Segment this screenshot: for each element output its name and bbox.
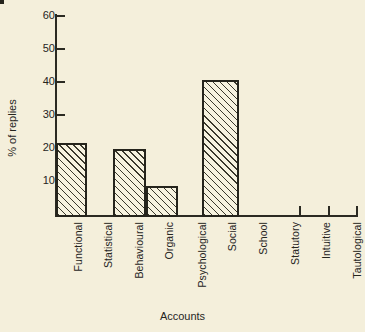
x-label-functional: Functional — [72, 222, 84, 271]
x-label-psychological: Psychological — [196, 222, 208, 288]
y-tick-mark-40 — [57, 81, 65, 83]
x-label-school: School — [257, 222, 269, 255]
x-label-tautological: Tautological — [351, 222, 363, 279]
y-tick-label-30: 30 — [29, 109, 55, 120]
bar-functional — [56, 143, 87, 217]
y-tick-label-60: 60 — [29, 10, 55, 21]
bar-organic — [146, 186, 178, 217]
x-label-organic: Organic — [163, 222, 175, 259]
y-tick-mark-30 — [57, 114, 65, 116]
bar-chart: 60 50 40 30 20 10 Functional Statistical… — [0, 0, 365, 332]
y-tick-10: 10 — [0, 175, 55, 186]
y-tick-label-20: 20 — [29, 142, 55, 153]
x-tick-mark-intuitive — [328, 206, 330, 216]
x-axis-title: Accounts — [0, 310, 365, 322]
bar-social — [202, 80, 239, 217]
bar-school — [0, 0, 4, 4]
y-tick-mark-60 — [57, 15, 65, 17]
y-tick-40: 40 — [0, 76, 55, 87]
y-tick-50: 50 — [0, 43, 55, 54]
x-label-social: Social — [226, 222, 238, 251]
x-label-behavioural: Behavioural — [133, 222, 145, 279]
y-tick-label-10: 10 — [29, 175, 55, 186]
x-label-statutory: Statutory — [289, 222, 301, 265]
x-label-statistical: Statistical — [102, 222, 114, 268]
x-label-intuitive: Intuitive — [320, 222, 332, 259]
y-tick-mark-50 — [57, 48, 65, 50]
y-tick-label-40: 40 — [29, 76, 55, 87]
x-tick-mark-statutory — [299, 206, 301, 216]
bar-behavioural — [113, 149, 146, 217]
y-tick-60: 60 — [0, 10, 55, 21]
x-tick-mark-tautological — [356, 206, 358, 216]
y-tick-label-50: 50 — [29, 43, 55, 54]
y-axis-title: % of replies — [6, 99, 18, 156]
